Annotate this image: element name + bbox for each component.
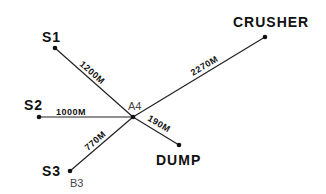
junction-dot-a4 — [131, 115, 136, 120]
node-label-s3: S3 — [42, 163, 61, 179]
node-label-s1: S1 — [42, 29, 61, 45]
node-dot-s3 — [68, 169, 73, 174]
junction-label-a4: A4 — [128, 100, 141, 112]
edge-a4-crusher — [133, 37, 265, 117]
edge-label-a4-dump: 190M — [146, 113, 172, 134]
node-dot-s1 — [53, 46, 58, 51]
node-dot-crusher — [263, 35, 268, 40]
node-label-dump: DUMP — [156, 152, 201, 168]
node-dot-s2 — [37, 115, 42, 120]
node-label-s2: S2 — [24, 97, 43, 113]
network-diagram: S1 S2 S3 CRUSHER DUMP A4 B3 1200M 1000M … — [0, 0, 326, 194]
edge-s3-a4 — [70, 117, 133, 171]
sublabel-b3: B3 — [70, 177, 83, 189]
node-label-crusher: CRUSHER — [233, 14, 309, 30]
node-dot-dump — [177, 143, 182, 148]
edge-label-s2-a4: 1000M — [56, 107, 86, 117]
